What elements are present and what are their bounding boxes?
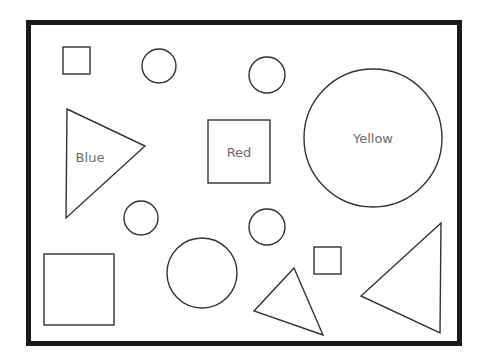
red-label: Red xyxy=(227,145,252,160)
circle-mid-right xyxy=(249,209,285,245)
shapes-diagram: Red Yellow Blue xyxy=(0,0,486,362)
large-square-bottom-left xyxy=(44,254,114,325)
blue-label: Blue xyxy=(76,150,105,165)
small-square-bottom xyxy=(314,247,341,274)
small-square-top-left xyxy=(63,47,90,74)
triangle-bottom-middle xyxy=(254,268,323,335)
yellow-label: Yellow xyxy=(352,131,393,146)
red-square-group: Red xyxy=(208,120,270,183)
triangle-bottom-right xyxy=(361,223,441,333)
circle-bottom-medium xyxy=(167,238,237,308)
yellow-circle-group: Yellow xyxy=(304,69,442,207)
circle-top-1 xyxy=(142,49,176,83)
circle-top-2 xyxy=(249,57,285,93)
blue-triangle-group: Blue xyxy=(66,109,145,218)
circle-mid-left xyxy=(124,201,158,235)
